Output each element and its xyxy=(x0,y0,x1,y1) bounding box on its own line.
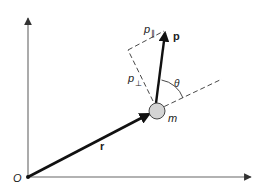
svg-text:⊥: ⊥ xyxy=(135,79,142,88)
svg-text:p: p xyxy=(143,23,150,35)
position-vector-r xyxy=(28,114,149,177)
p-parallel-label: p ∥ xyxy=(143,23,155,38)
mass-particle xyxy=(149,103,165,119)
momentum-vector-p xyxy=(156,33,165,103)
angle-arc xyxy=(162,80,184,98)
theta-label: θ xyxy=(174,78,180,89)
angular-momentum-diagram: O r p m θ p ∥ p ⊥ xyxy=(0,0,261,185)
dashed-construction xyxy=(128,31,222,110)
origin-label: O xyxy=(13,172,22,184)
svg-text:p: p xyxy=(127,72,134,84)
r-label: r xyxy=(100,140,105,152)
svg-text:∥: ∥ xyxy=(151,29,155,38)
origin-point xyxy=(26,175,30,179)
p-label: p xyxy=(173,30,180,42)
p-perpendicular-label: p ⊥ xyxy=(127,72,142,88)
mass-label: m xyxy=(168,112,177,124)
